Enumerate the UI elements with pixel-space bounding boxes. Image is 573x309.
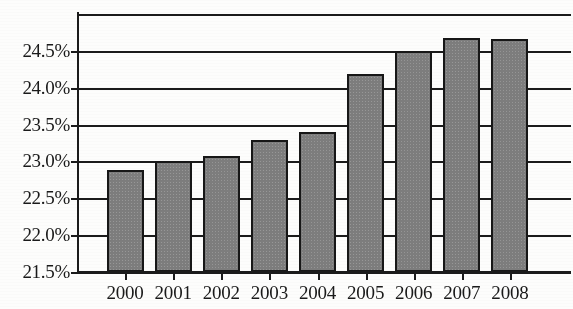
x-tick-mark-2000 (125, 272, 127, 280)
x-tick-mark-2001 (173, 272, 175, 280)
x-axis-tick-label: 2006 (388, 283, 440, 303)
x-tick-mark-2007 (462, 272, 464, 280)
x-tick-mark-2004 (318, 272, 320, 280)
bar-chart: 21.5%22.0%22.5%23.0%23.5%24.0%24.5% 2000… (0, 0, 573, 309)
x-tick-mark-2002 (221, 272, 223, 280)
x-axis-tick-label: 2000 (99, 283, 151, 303)
x-tick-mark-2008 (510, 272, 512, 280)
x-axis-tick-label: 2003 (243, 283, 295, 303)
x-tick-mark-2006 (414, 272, 416, 280)
x-axis-tick-label: 2005 (340, 283, 392, 303)
x-tick-mark-2003 (269, 272, 271, 280)
x-axis-tick-label: 2008 (484, 283, 536, 303)
x-axis-tick-label: 2001 (147, 283, 199, 303)
x-tick-mark-2005 (366, 272, 368, 280)
x-axis-tick-label: 2002 (195, 283, 247, 303)
x-axis-tick-label: 2004 (292, 283, 344, 303)
x-axis-tick-group: 200020012002200320042005200620072008 (0, 0, 573, 309)
x-axis-tick-label: 2007 (436, 283, 488, 303)
